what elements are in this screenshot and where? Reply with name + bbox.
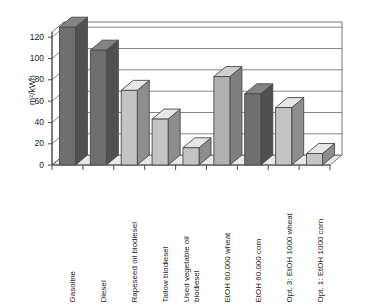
bar-front-face bbox=[183, 148, 199, 165]
y-tick-label: 60 bbox=[20, 97, 44, 105]
y-tick-label: 0 bbox=[20, 161, 44, 169]
bar-column bbox=[214, 67, 242, 165]
bar-front-face bbox=[59, 27, 75, 165]
x-axis-label: Tallow biodiesel bbox=[161, 246, 171, 302]
y-tick-label: 120 bbox=[20, 33, 44, 41]
bar-column bbox=[276, 98, 304, 165]
y-tick-label: 20 bbox=[20, 139, 44, 147]
bar-side-face bbox=[292, 98, 304, 165]
x-axis-label: Diesel bbox=[99, 280, 109, 302]
bar-front-face bbox=[121, 90, 137, 165]
y-tick-label: 80 bbox=[20, 75, 44, 83]
x-axis-label-line: Opt. 3: EtOH 1000 wheat bbox=[284, 213, 293, 302]
y-tick-marks bbox=[48, 37, 52, 165]
chart-root: m²/kWh bbox=[0, 0, 367, 305]
bar-front-face bbox=[245, 94, 261, 165]
x-axis-label: EtOH 60.000 wheat bbox=[222, 232, 232, 302]
bar-side-face bbox=[106, 40, 118, 165]
x-axis-labels: GasolineDieselRapeseed oil biodieselTall… bbox=[0, 176, 367, 305]
x-axis-label-line: Used vegetable oil bbox=[182, 236, 191, 302]
x-axis-label-line: Opt. 1: EtOH 1000 corn bbox=[315, 218, 324, 302]
x-axis-label: Gasoline bbox=[68, 270, 78, 302]
x-axis-label: Opt. 1: EtOH 1000 corn bbox=[315, 218, 325, 302]
bar-column bbox=[245, 84, 273, 165]
y-tick-label: 40 bbox=[20, 118, 44, 126]
bar-column bbox=[59, 17, 87, 165]
x-axis-label: Opt. 3: EtOH 1000 wheat bbox=[284, 213, 294, 302]
bar-side-face bbox=[261, 84, 273, 165]
x-axis-label-line: biodiesel bbox=[192, 236, 202, 302]
bar-front-face bbox=[276, 108, 292, 165]
y-tick-label: 100 bbox=[20, 54, 44, 62]
bar-column bbox=[90, 40, 118, 165]
x-axis-label-line: Tallow biodiesel bbox=[161, 246, 170, 302]
bar-front-face bbox=[152, 119, 168, 165]
x-axis-label-line: EtOH 60.000 wheat bbox=[222, 232, 231, 302]
bar-column bbox=[121, 80, 149, 165]
bar-front-face bbox=[307, 154, 323, 165]
plot-area: 0 20 40 60 80 100 120 bbox=[0, 0, 367, 185]
x-axis-label-line: EtOH 60.000 corn bbox=[253, 238, 262, 302]
chart-3d-frame bbox=[0, 0, 367, 185]
x-axis-label: Used vegetable oilbiodiesel bbox=[182, 236, 201, 302]
bar-column bbox=[152, 109, 180, 165]
bar-front-face bbox=[214, 77, 230, 165]
bar-front-face bbox=[90, 50, 106, 165]
bar-side-face bbox=[137, 80, 149, 165]
bar-side-face bbox=[75, 17, 87, 165]
x-axis-label-line: Gasoline bbox=[68, 270, 77, 302]
x-axis-label-line: Rapeseed oil biodiesel bbox=[130, 222, 139, 303]
x-axis-label: EtOH 60.000 corn bbox=[253, 238, 263, 302]
x-axis-label-line: Diesel bbox=[99, 280, 108, 302]
bar-side-face bbox=[230, 67, 242, 165]
x-axis-label: Rapeseed oil biodiesel bbox=[130, 222, 140, 303]
x-tick-marks bbox=[52, 165, 330, 170]
